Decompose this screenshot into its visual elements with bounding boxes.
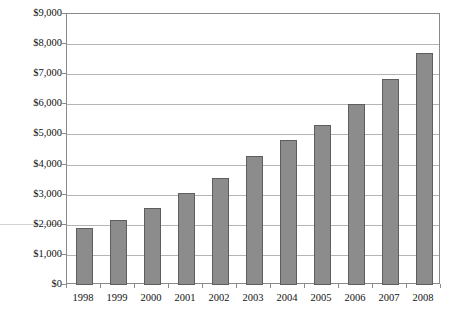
x-axis-tick-mark: [440, 284, 441, 288]
y-axis-tick-mark: [62, 43, 66, 44]
x-axis-tick-mark: [202, 284, 203, 288]
x-axis-tick-mark: [270, 284, 271, 288]
y-axis-tick-label: $7,000: [0, 68, 62, 79]
x-axis-tick-mark: [168, 284, 169, 288]
x-axis-tick-mark: [406, 284, 407, 288]
y-axis-tick-mark: [62, 164, 66, 165]
y-axis-tick-mark: [62, 73, 66, 74]
y-axis-tick-mark: [62, 133, 66, 134]
x-axis-tick-label: 2008: [403, 293, 443, 304]
x-axis-tick-mark: [304, 284, 305, 288]
y-axis-tick-label: $6,000: [0, 98, 62, 109]
y-axis-tick-label: $8,000: [0, 38, 62, 49]
y-axis-tick-mark: [62, 103, 66, 104]
y-axis-tick-label: $1,000: [0, 249, 62, 260]
x-axis-tick-mark: [66, 284, 67, 288]
y-axis-tick-label: $5,000: [0, 128, 62, 139]
y-axis-tick-label: $3,000: [0, 189, 62, 200]
y-axis-tick-label: $4,000: [0, 159, 62, 170]
x-axis-tick-mark: [338, 284, 339, 288]
x-axis-tick-mark: [236, 284, 237, 288]
y-axis-tick-mark: [62, 194, 66, 195]
y-axis-tick-label: $0: [0, 279, 62, 290]
bar-chart: $9,000$8,000$7,000$6,000$5,000$4,000$3,0…: [0, 0, 462, 314]
y-axis-tick-mark: [62, 254, 66, 255]
y-axis-tick-mark: [62, 224, 66, 225]
x-axis-tick-mark: [134, 284, 135, 288]
y-axis-tick-label: $9,000: [0, 8, 62, 19]
y-axis-tick-mark: [62, 13, 66, 14]
y-axis: $9,000$8,000$7,000$6,000$5,000$4,000$3,0…: [0, 0, 462, 314]
x-axis-tick-mark: [372, 284, 373, 288]
y-axis-tick-label: $2,000: [0, 219, 62, 230]
x-axis-tick-mark: [100, 284, 101, 288]
